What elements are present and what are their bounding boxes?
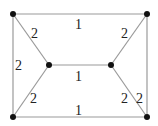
node-tr bbox=[144, 11, 150, 17]
graph-diagram: 1 2 2 1 2 2 2 2 1 bbox=[0, 0, 158, 126]
weight-tr-mr: 2 bbox=[121, 26, 128, 41]
weight-tr-br: 2 bbox=[136, 91, 143, 106]
weight-mr-br: 2 bbox=[121, 91, 128, 106]
node-bl bbox=[10, 114, 16, 120]
node-ml bbox=[46, 62, 52, 68]
weight-tl-tr: 1 bbox=[75, 17, 82, 32]
node-mr bbox=[108, 62, 114, 68]
weight-bl-ml: 2 bbox=[30, 91, 37, 106]
weight-bl-br: 1 bbox=[75, 103, 82, 118]
edge-tr-mr bbox=[111, 14, 147, 65]
weight-tl-ml: 2 bbox=[31, 26, 38, 41]
node-tl bbox=[10, 11, 16, 17]
weight-ml-mr: 1 bbox=[75, 69, 82, 84]
node-br bbox=[144, 114, 150, 120]
weight-tl-bl: 2 bbox=[15, 58, 22, 73]
